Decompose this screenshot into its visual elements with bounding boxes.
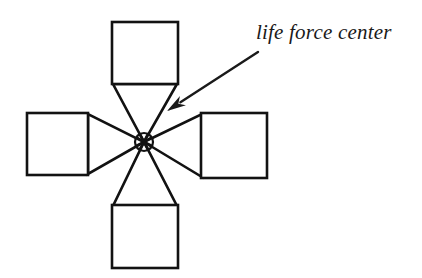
square-left bbox=[27, 113, 88, 175]
pointer-arrow bbox=[167, 52, 258, 111]
center-node-group bbox=[133, 131, 155, 153]
square-top bbox=[112, 22, 178, 84]
arrow-shaft bbox=[180, 52, 258, 102]
square-bottom bbox=[112, 205, 178, 268]
annotation-label-life-force-center: life force center bbox=[256, 19, 392, 45]
square-right bbox=[201, 113, 267, 178]
diagram-canvas: life force center bbox=[0, 0, 422, 278]
